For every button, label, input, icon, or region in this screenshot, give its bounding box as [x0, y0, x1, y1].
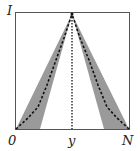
x-axis-left-label: 0	[8, 134, 16, 147]
triangle-diagram	[0, 0, 140, 151]
y-axis-top-label: I	[7, 4, 12, 17]
left-band	[16, 14, 72, 129]
x-axis-right-label: N	[122, 134, 133, 147]
right-band	[72, 14, 129, 129]
apex-point	[71, 13, 74, 16]
x-axis-mid-label: y	[68, 134, 75, 147]
